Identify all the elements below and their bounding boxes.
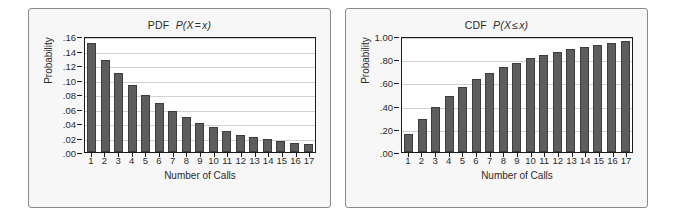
x-tick-label: 10 [524, 155, 537, 169]
chart-title-pdf-math-tail: x) [202, 19, 211, 31]
bar [195, 123, 204, 152]
y-tick-mark [394, 60, 399, 61]
y-tick-label: .80 [380, 55, 393, 66]
x-tick-label: 12 [234, 155, 247, 169]
x-tick-label: 17 [620, 155, 633, 169]
bar [209, 127, 218, 152]
x-tick-label: 1 [84, 155, 97, 169]
chart-title-cdf-math-op: ≤ [511, 19, 519, 31]
y-tick-label: .04 [63, 119, 76, 130]
x-tick-label: 8 [180, 155, 193, 169]
y-tick-label: .12 [63, 61, 76, 72]
x-tick-label: 11 [538, 155, 551, 169]
x-tick-label: 17 [303, 155, 316, 169]
y-tick-label: .10 [63, 75, 76, 86]
y-tick-label: .16 [63, 32, 76, 43]
x-tick-label: 3 [112, 155, 125, 169]
chart-title-pdf-math-lead: P(X [176, 19, 194, 31]
y-tick-mark [77, 37, 82, 38]
x-tick-label: 6 [153, 155, 166, 169]
x-tick-label: 13 [248, 155, 261, 169]
y-tick-mark [394, 153, 399, 154]
x-tick-label: 9 [193, 155, 206, 169]
chart-title-pdf-math-op: = [194, 19, 202, 31]
y-tick-label: .02 [63, 133, 76, 144]
y-tick-mark [394, 130, 399, 131]
bar [472, 79, 481, 152]
bar [539, 55, 548, 152]
x-tick-label: 16 [289, 155, 302, 169]
x-tick-label: 8 [497, 155, 510, 169]
x-axis-labels-cdf: 1234567891011121314151617 [401, 155, 633, 169]
x-tick-label: 7 [483, 155, 496, 169]
y-axis-labels-cdf: .00.20.40.60.801.00 [346, 37, 399, 153]
y-tick-label: .20 [380, 124, 393, 135]
x-tick-label: 11 [221, 155, 234, 169]
bar [155, 103, 164, 152]
y-tick-mark [77, 110, 82, 111]
bar [580, 47, 589, 152]
bar-series-cdf [402, 38, 632, 152]
bar [182, 117, 191, 152]
x-tick-label: 3 [429, 155, 442, 169]
x-tick-label: 14 [579, 155, 592, 169]
x-tick-label: 14 [262, 155, 275, 169]
y-tick-label: .06 [63, 104, 76, 115]
y-tick-mark [394, 83, 399, 84]
bar [101, 60, 110, 152]
y-tick-mark [77, 81, 82, 82]
chart-title-cdf-prefix: CDF [465, 19, 487, 31]
x-tick-label: 2 [415, 155, 428, 169]
bar [485, 73, 494, 152]
plot-area-pdf [84, 37, 316, 153]
x-tick-label: 2 [98, 155, 111, 169]
bar [512, 63, 521, 152]
chart-title-pdf-prefix: PDF [148, 19, 170, 31]
y-tick-label: .14 [63, 46, 76, 57]
bar [445, 96, 454, 152]
x-tick-label: 5 [456, 155, 469, 169]
x-axis-title-cdf: Number of Calls [401, 170, 633, 181]
plot-area-cdf [401, 37, 633, 153]
x-tick-label: 4 [442, 155, 455, 169]
bar [621, 41, 630, 152]
bar [276, 141, 285, 152]
y-tick-label: .00 [380, 148, 393, 159]
x-axis-title-pdf: Number of Calls [84, 170, 316, 181]
chart-title-cdf-math-lead: P(X [493, 19, 511, 31]
x-tick-label: 10 [207, 155, 220, 169]
y-tick-label: .00 [63, 148, 76, 159]
x-tick-label: 13 [565, 155, 578, 169]
y-tick-mark [394, 37, 399, 38]
bar [458, 87, 467, 152]
x-tick-label: 5 [139, 155, 152, 169]
bar [404, 134, 413, 152]
bar [499, 67, 508, 152]
bar [168, 111, 177, 152]
bar [431, 107, 440, 152]
bar [222, 131, 231, 152]
bar [607, 43, 616, 152]
y-tick-mark [77, 66, 82, 67]
y-tick-mark [77, 153, 82, 154]
bar [141, 95, 150, 152]
y-tick-mark [77, 139, 82, 140]
y-tick-label: .08 [63, 90, 76, 101]
y-tick-mark [394, 107, 399, 108]
y-tick-mark [77, 124, 82, 125]
bar [236, 135, 245, 152]
y-tick-mark [77, 95, 82, 96]
x-tick-label: 7 [166, 155, 179, 169]
chart-title-cdf: CDF P(X≤x) [346, 19, 647, 31]
x-tick-label: 16 [606, 155, 619, 169]
chart-title-cdf-math-tail: x) [519, 19, 528, 31]
bar [553, 52, 562, 152]
bar [87, 43, 96, 152]
y-tick-label: .60 [380, 78, 393, 89]
bar [304, 144, 313, 152]
x-tick-label: 15 [592, 155, 605, 169]
chart-panel-cdf: CDF P(X≤x) Probability .00.20.40.60.801.… [345, 8, 648, 208]
figure-root: PDF P(X=x) Probability .00.02.04.06.08.1… [0, 0, 677, 217]
x-tick-label: 9 [510, 155, 523, 169]
x-tick-label: 15 [275, 155, 288, 169]
